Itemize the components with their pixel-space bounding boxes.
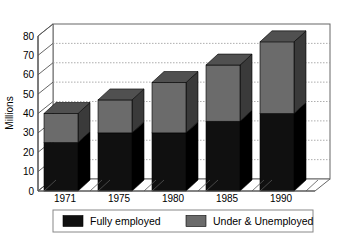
- y-axis-title: Millions: [4, 96, 15, 129]
- bar-1985-under-unemployed-front: [206, 65, 240, 121]
- bar-1980-fully-employed-side: [186, 122, 198, 191]
- bar-1990-under-unemployed-side: [294, 31, 306, 114]
- x-tick-label-1971: 1971: [54, 193, 77, 204]
- y-axis-tick-labels: 0 10 20 30 40 50 60 70 80: [23, 31, 35, 197]
- legend-label-fully-employed: Fully employed: [90, 215, 161, 227]
- y-tick-label-10: 10: [23, 166, 35, 177]
- x-tick-label-1980: 1980: [162, 193, 185, 204]
- legend-swatch-under-unemployed: [186, 216, 206, 227]
- x-tick-label-1990: 1990: [270, 193, 293, 204]
- bar-1975-fully-employed-front: [98, 133, 132, 191]
- bar-1980-fully-employed-front: [152, 133, 186, 191]
- bar-group-1980[interactable]: [152, 72, 198, 191]
- x-tick-label-1975: 1975: [108, 193, 131, 204]
- stacked-bar-chart: 0 10 20 30 40 50 60 70 80 Millions: [0, 0, 344, 241]
- y-tick-label-30: 30: [23, 127, 35, 138]
- bar-1990-fully-employed-side: [294, 103, 306, 192]
- bar-1985-fully-employed-side: [240, 110, 252, 191]
- chart-legend: Fully employed Under & Unemployed: [53, 210, 314, 232]
- bar-1971-fully-employed-front: [44, 143, 78, 191]
- bar-1990-fully-employed-front: [260, 114, 294, 192]
- y-tick-label-80: 80: [23, 31, 35, 42]
- legend-swatch-fully-employed: [63, 216, 83, 227]
- legend-label-under-unemployed: Under & Unemployed: [213, 215, 314, 227]
- bar-1980-under-unemployed-front: [152, 83, 186, 133]
- x-axis-category-labels: 1971 1975 1980 1985 1990: [54, 193, 293, 204]
- bar-1971-under-unemployed-front: [44, 114, 78, 143]
- bar-1975-fully-employed-side: [132, 122, 144, 191]
- chart-container: 0 10 20 30 40 50 60 70 80 Millions: [0, 0, 344, 241]
- bar-group-1971[interactable]: [44, 103, 90, 192]
- bar-1985-under-unemployed-side: [240, 54, 252, 121]
- bar-group-1990[interactable]: [260, 31, 306, 191]
- y-tick-label-0: 0: [28, 186, 34, 197]
- y-tick-label-60: 60: [23, 69, 35, 80]
- bar-1985-fully-employed-front: [206, 121, 240, 191]
- y-tick-label-20: 20: [23, 147, 35, 158]
- bar-1990-under-unemployed-front: [260, 42, 294, 114]
- bar-group-1975[interactable]: [98, 89, 144, 191]
- x-tick-label-1985: 1985: [216, 193, 239, 204]
- bar-group-1985[interactable]: [206, 54, 252, 191]
- y-tick-label-70: 70: [23, 50, 35, 61]
- bar-1975-under-unemployed-front: [98, 100, 132, 133]
- y-tick-label-50: 50: [23, 89, 35, 100]
- y-tick-label-40: 40: [23, 108, 35, 119]
